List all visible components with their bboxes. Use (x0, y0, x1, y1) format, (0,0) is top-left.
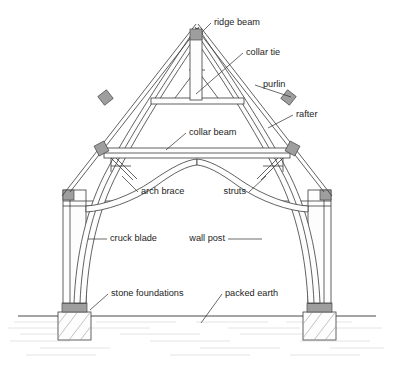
sole-plate-left (62, 303, 87, 312)
label-packed-earth: packed earth (225, 288, 278, 298)
label-wall-post: wall post (188, 233, 225, 243)
label-purlin: purlin (263, 79, 285, 89)
label-struts: struts (224, 186, 247, 196)
purlin-joint-upper-left (98, 90, 113, 105)
collar-beam (104, 148, 290, 158)
sole-plate-right (307, 303, 332, 312)
label-ridge-beam: ridge beam (214, 17, 260, 27)
label-arch-brace: arch brace (141, 186, 184, 196)
leader-rafter (268, 115, 293, 128)
label-collar-tie: collar tie (246, 47, 280, 57)
cruck-frame-diagram: ridge beam collar tie purlin rafter coll… (0, 0, 394, 365)
purlin-joint-upper-right (281, 90, 296, 105)
label-rafter: rafter (296, 109, 317, 119)
label-collar-beam: collar beam (189, 127, 237, 137)
label-cruck-blade: cruck blade (110, 233, 157, 243)
diagram-canvas: ridge beam collar tie purlin rafter coll… (0, 0, 394, 365)
leader-ridge-beam (202, 23, 211, 32)
leader-arch-brace (122, 176, 138, 192)
leader-collar-beam (166, 133, 186, 150)
label-stone-foundations: stone foundations (111, 288, 184, 298)
ridge-beam (190, 29, 202, 40)
leader-stone-foundations (90, 294, 108, 310)
